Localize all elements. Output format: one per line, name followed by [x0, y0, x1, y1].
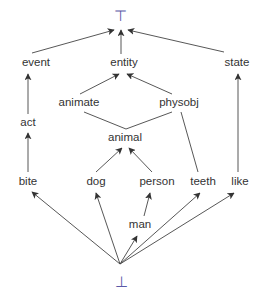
edge-animate-to-entity	[80, 74, 119, 94]
edge-bottom-to-man	[120, 236, 137, 264]
edge-person-to-animal	[129, 148, 152, 172]
edge-bottom-to-bite	[32, 192, 120, 264]
node-man: man	[129, 219, 151, 231]
edge-man-to-person	[144, 193, 150, 216]
top-symbol: ⊤	[114, 8, 127, 23]
node-animal: animal	[108, 132, 142, 144]
bottom-symbol: ⊥	[115, 274, 128, 289]
node-animate: animate	[59, 97, 100, 109]
edge-animal-to-physobj	[126, 112, 172, 129]
node-physobj: physobj	[159, 97, 199, 109]
node-person: person	[139, 176, 174, 188]
node-teeth: teeth	[190, 176, 216, 188]
node-like: like	[231, 176, 248, 188]
edge-dog-to-animal	[96, 148, 122, 172]
node-dog: dog	[86, 176, 105, 188]
type-hierarchy-diagram: ⊤ ⊥ evententitystateanimatephysobjactani…	[0, 0, 268, 296]
edge-physobj-to-entity	[127, 74, 172, 94]
node-entity: entity	[110, 57, 138, 69]
node-state: state	[225, 57, 250, 69]
edge-event-to-top	[32, 30, 114, 53]
edges-layer	[0, 0, 268, 296]
node-act: act	[20, 117, 35, 129]
node-event: event	[22, 57, 50, 69]
edge-bottom-to-dog	[96, 193, 120, 264]
node-bite: bite	[19, 176, 38, 188]
edge-teeth-to-physobj	[181, 112, 198, 172]
edge-state-to-top	[128, 30, 224, 52]
edge-animal-to-animate	[84, 112, 126, 129]
